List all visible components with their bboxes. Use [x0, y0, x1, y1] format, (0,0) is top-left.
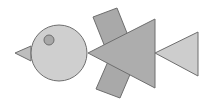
- bird-shapes-figure: [0, 0, 208, 108]
- tail-end-triangle: [155, 32, 198, 76]
- body-circle: [31, 25, 87, 81]
- eye-circle: [44, 35, 54, 45]
- beak-triangle: [15, 46, 31, 61]
